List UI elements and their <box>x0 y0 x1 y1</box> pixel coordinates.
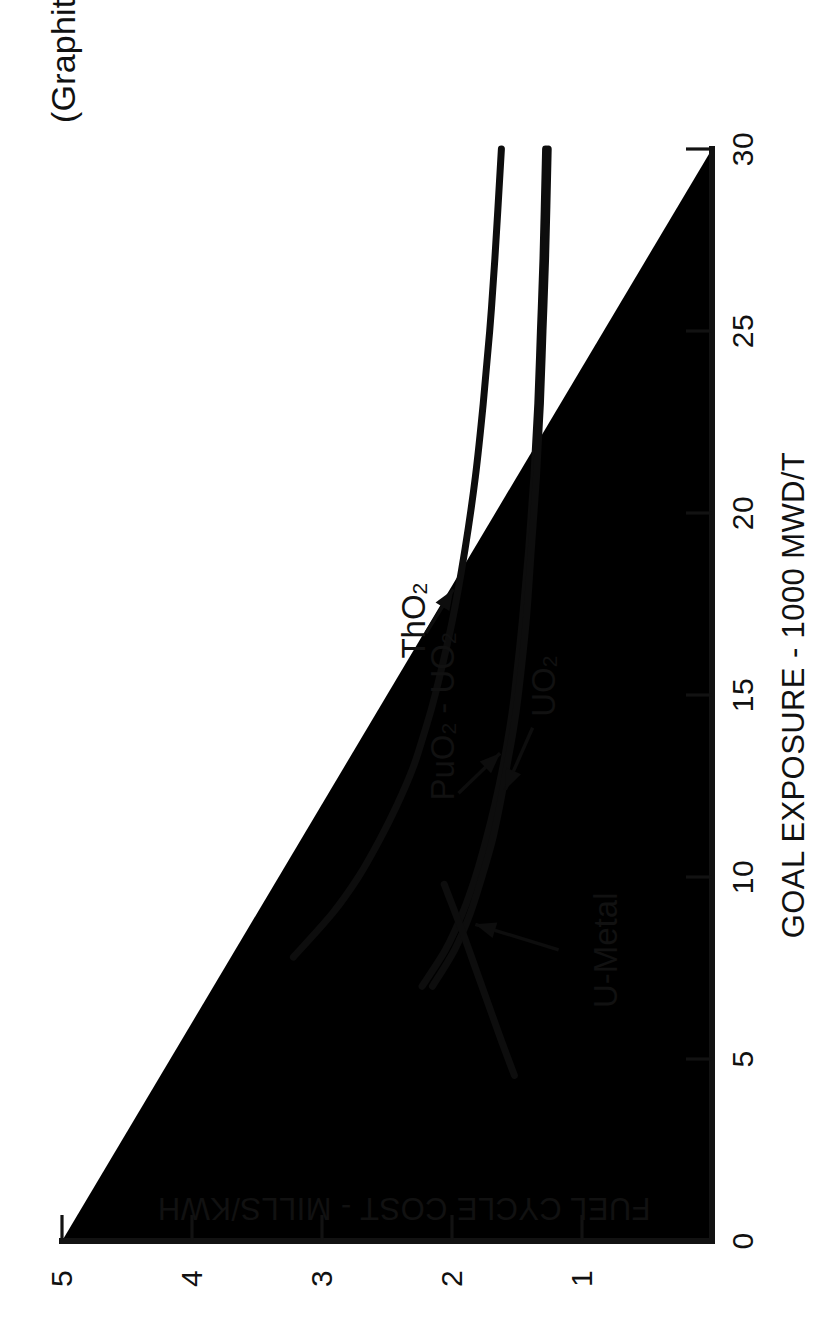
plot-area: 051015202530 12345 ThO2PuO2 - UO2UO2U-Me… <box>62 149 712 1241</box>
axes-group <box>62 149 712 1241</box>
rotated-figure-container: (Graphite Moderated Power Reactor Concep… <box>0 0 829 1321</box>
annotation-u-metal: U-Metal <box>589 893 622 1009</box>
x-axis-title: GOAL EXPOSURE - 1000 MWD/T <box>776 452 812 938</box>
y-axis-title: FUEL CYCLE COST - MILLS/KWH <box>79 1190 729 1226</box>
axis-lines <box>62 149 712 1241</box>
x-tick-label: 25 <box>726 314 760 348</box>
plot-wrapper: (Graphite Moderated Power Reactor Concep… <box>0 0 829 1321</box>
x-tick-label: 15 <box>726 678 760 712</box>
y-tick-label: 3 <box>305 1270 339 1287</box>
plot-svg <box>22 101 782 1281</box>
annotation-uo2: UO2 <box>527 656 560 717</box>
x-tick-label: 0 <box>726 1232 760 1249</box>
x-tick-label: 10 <box>726 860 760 894</box>
y-tick-label: 2 <box>435 1270 469 1287</box>
y-tick-label: 1 <box>565 1270 599 1287</box>
x-tick-label: 5 <box>726 1050 760 1067</box>
y-tick-label: 5 <box>45 1270 79 1287</box>
annotation-puo2-uo2: PuO2 - UO2 <box>426 632 459 800</box>
x-tick-label: 20 <box>726 496 760 530</box>
y-tick-label: 4 <box>175 1270 209 1287</box>
figure-canvas: (Graphite Moderated Power Reactor Concep… <box>0 0 829 1321</box>
x-tick-label: 30 <box>726 132 760 166</box>
